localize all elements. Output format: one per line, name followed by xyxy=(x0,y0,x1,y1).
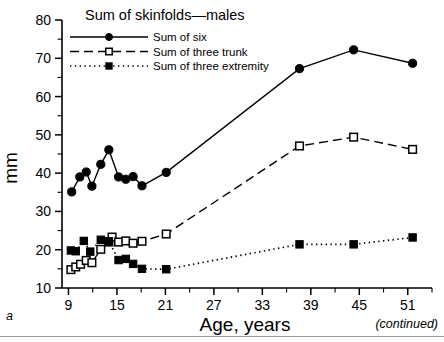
y-axis-title: mm xyxy=(0,152,21,184)
data-point-filled-square xyxy=(138,265,145,272)
chart-legend: Sum of sixSum of three trunkSum of three… xyxy=(70,31,269,72)
y-tick-label: 20 xyxy=(35,242,51,258)
data-point-filled-square xyxy=(409,234,416,241)
series-line xyxy=(71,137,413,269)
x-tick-label: 45 xyxy=(352,297,368,313)
data-point-filled-square xyxy=(72,248,79,255)
y-tick-label: 50 xyxy=(35,127,51,143)
y-tick-label: 40 xyxy=(35,165,51,181)
data-point-open-square xyxy=(97,246,105,254)
data-point-open-square xyxy=(106,48,112,54)
x-tick-label: 51 xyxy=(400,297,416,313)
data-point-filled-square xyxy=(106,63,112,69)
data-point-filled-circle xyxy=(409,59,417,67)
data-point-filled-square xyxy=(97,236,104,243)
data-point-open-square xyxy=(296,142,304,150)
figure-container: 1020304050607080915212733394551 mm Age, … xyxy=(0,0,444,342)
series-1 xyxy=(67,133,416,273)
continued-note: (continued) xyxy=(375,317,438,331)
x-tick-label: 21 xyxy=(158,297,174,313)
data-point-open-square xyxy=(409,146,417,154)
data-point-filled-circle xyxy=(97,160,105,168)
data-point-filled-square xyxy=(115,256,122,263)
legend-item-1[interactable]: Sum of three trunk xyxy=(70,46,248,58)
series-plots xyxy=(67,46,417,274)
data-point-open-square xyxy=(350,133,358,141)
y-tick-label: 30 xyxy=(35,203,51,219)
data-point-filled-circle xyxy=(129,172,137,180)
data-point-filled-circle xyxy=(350,46,358,54)
x-tick-label: 39 xyxy=(303,297,319,313)
legend-item-0[interactable]: Sum of six xyxy=(70,31,207,43)
legend-item-2[interactable]: Sum of three extremity xyxy=(70,60,269,72)
data-point-filled-square xyxy=(350,241,357,248)
x-tick-label: 33 xyxy=(255,297,271,313)
data-point-open-square xyxy=(138,237,146,245)
data-point-filled-circle xyxy=(105,146,113,154)
data-point-filled-square xyxy=(105,238,112,245)
x-tick-label: 27 xyxy=(206,297,222,313)
x-tick-label: 15 xyxy=(109,297,125,313)
data-point-filled-circle xyxy=(106,34,113,41)
legend-label: Sum of six xyxy=(153,31,207,43)
data-point-filled-circle xyxy=(295,65,303,73)
legend-label: Sum of three extremity xyxy=(153,60,269,72)
data-point-open-square xyxy=(162,230,170,238)
data-point-filled-circle xyxy=(88,182,96,190)
y-tick-label: 70 xyxy=(35,50,51,66)
data-point-filled-circle xyxy=(68,188,76,196)
legend-title: Sum of skinfolds—males xyxy=(85,7,245,23)
x-axis-title: Age, years xyxy=(200,314,291,335)
data-point-filled-square xyxy=(163,266,170,273)
data-point-filled-square xyxy=(80,237,87,244)
data-point-filled-square xyxy=(129,260,136,267)
footer-rule xyxy=(0,336,444,337)
legend-label: Sum of three trunk xyxy=(153,46,248,58)
y-tick-label: 80 xyxy=(35,12,51,28)
data-point-filled-square xyxy=(296,241,303,248)
data-point-open-square xyxy=(88,259,96,267)
data-point-open-square xyxy=(129,239,137,247)
panel-letter: a xyxy=(6,309,13,323)
data-point-open-square xyxy=(122,237,130,245)
data-point-filled-circle xyxy=(162,168,170,176)
data-point-filled-circle xyxy=(138,182,146,190)
data-point-filled-square xyxy=(87,248,94,255)
data-point-filled-circle xyxy=(82,168,90,176)
line-chart: 1020304050607080915212733394551 mm Age, … xyxy=(0,0,444,342)
y-tick-label: 10 xyxy=(35,280,51,296)
y-tick-label: 60 xyxy=(35,89,51,105)
data-point-open-square xyxy=(115,238,123,246)
data-point-filled-square xyxy=(122,255,129,262)
x-tick-label: 9 xyxy=(65,297,73,313)
